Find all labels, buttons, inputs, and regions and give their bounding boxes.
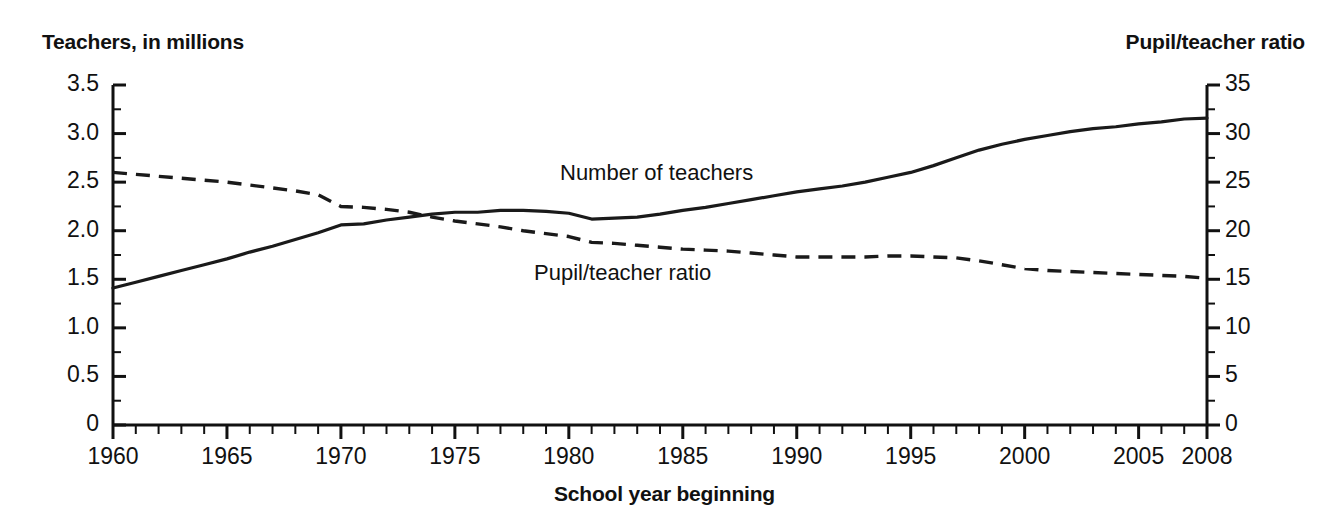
x-tick-label: 2000 bbox=[980, 443, 1070, 470]
x-tick-label: 1960 bbox=[68, 443, 158, 470]
x-tick-label: 1995 bbox=[866, 443, 956, 470]
right-tick-label: 25 bbox=[1225, 167, 1251, 194]
right-tick-label: 15 bbox=[1225, 264, 1251, 291]
left-tick-label: 2.5 bbox=[67, 167, 99, 194]
x-tick-label: 2008 bbox=[1162, 443, 1252, 470]
x-tick-label: 1980 bbox=[524, 443, 614, 470]
x-tick-label: 1990 bbox=[752, 443, 842, 470]
pupil-teacher-chart: Teachers, in millions Pupil/teacher rati… bbox=[0, 0, 1329, 531]
left-tick-label: 3.5 bbox=[67, 70, 99, 97]
right-tick-label: 5 bbox=[1225, 361, 1238, 388]
right-tick-label: 10 bbox=[1225, 313, 1251, 340]
series-label-pupil-teacher-ratio: Pupil/teacher ratio bbox=[534, 260, 711, 286]
left-tick-label: 3.0 bbox=[67, 119, 99, 146]
left-tick-label: 0 bbox=[86, 410, 99, 437]
x-axis-title: School year beginning bbox=[0, 482, 1329, 506]
right-tick-label: 20 bbox=[1225, 216, 1251, 243]
x-tick-label: 1970 bbox=[296, 443, 386, 470]
left-tick-label: 2.0 bbox=[67, 216, 99, 243]
left-tick-label: 1.0 bbox=[67, 313, 99, 340]
series-label-number-of-teachers: Number of teachers bbox=[560, 160, 753, 186]
x-tick-label: 1975 bbox=[410, 443, 500, 470]
left-tick-label: 1.5 bbox=[67, 264, 99, 291]
x-tick-label: 1965 bbox=[182, 443, 272, 470]
right-tick-label: 0 bbox=[1225, 410, 1238, 437]
left-tick-label: 0.5 bbox=[67, 361, 99, 388]
right-tick-label: 30 bbox=[1225, 119, 1251, 146]
right-tick-label: 35 bbox=[1225, 70, 1251, 97]
x-tick-label: 1985 bbox=[638, 443, 728, 470]
